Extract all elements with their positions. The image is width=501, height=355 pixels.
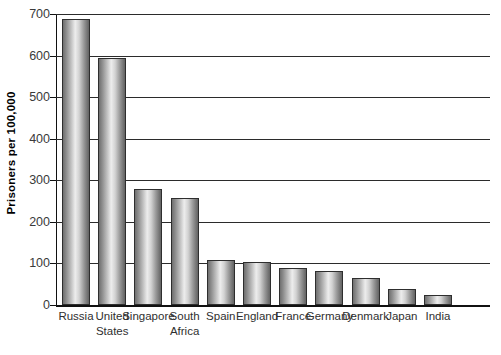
x-axis-tick-label-line2: Africa: [155, 324, 215, 339]
y-axis-tick-label: 300: [16, 174, 50, 187]
y-axis-tick: [50, 180, 56, 181]
x-axis-tick-label: India: [408, 309, 468, 324]
x-axis-line: [56, 305, 490, 307]
gridline: [56, 14, 490, 15]
bar: [352, 278, 380, 305]
y-axis-tick-label: 600: [16, 50, 50, 63]
bar: [134, 189, 162, 305]
y-axis-tick: [50, 263, 56, 264]
bar-chart: Prisoners per 100,000 010020030040050060…: [0, 0, 501, 355]
bar: [171, 198, 199, 305]
y-axis-tick: [50, 222, 56, 223]
bar: [207, 260, 235, 305]
bar: [424, 295, 452, 305]
y-axis-tick: [50, 56, 56, 57]
y-axis-tick-label: 100: [16, 257, 50, 270]
plot-area: [56, 14, 490, 306]
x-axis-tick-label-line2: States: [82, 324, 142, 339]
bar: [62, 19, 90, 305]
y-axis-tick: [50, 97, 56, 98]
gridline: [56, 56, 490, 57]
y-axis-tick: [50, 14, 56, 15]
y-axis-tick: [50, 305, 56, 306]
bar: [279, 268, 307, 305]
y-axis-tick-label: 700: [16, 8, 50, 21]
x-axis-tick-labels: RussiaUnitedStatesSingaporeSouthAfricaSp…: [56, 309, 490, 355]
y-axis-tick-label: 500: [16, 91, 50, 104]
bar: [388, 289, 416, 305]
bar: [315, 271, 343, 305]
y-axis-tick-label: 0: [16, 299, 50, 312]
y-axis-tick: [50, 139, 56, 140]
y-axis-tick-label: 200: [16, 216, 50, 229]
y-axis-tick-labels: 0100200300400500600700: [12, 14, 50, 306]
bar: [243, 262, 271, 305]
y-axis-tick-label: 400: [16, 133, 50, 146]
bar: [98, 58, 126, 305]
y-axis-line: [56, 14, 57, 306]
